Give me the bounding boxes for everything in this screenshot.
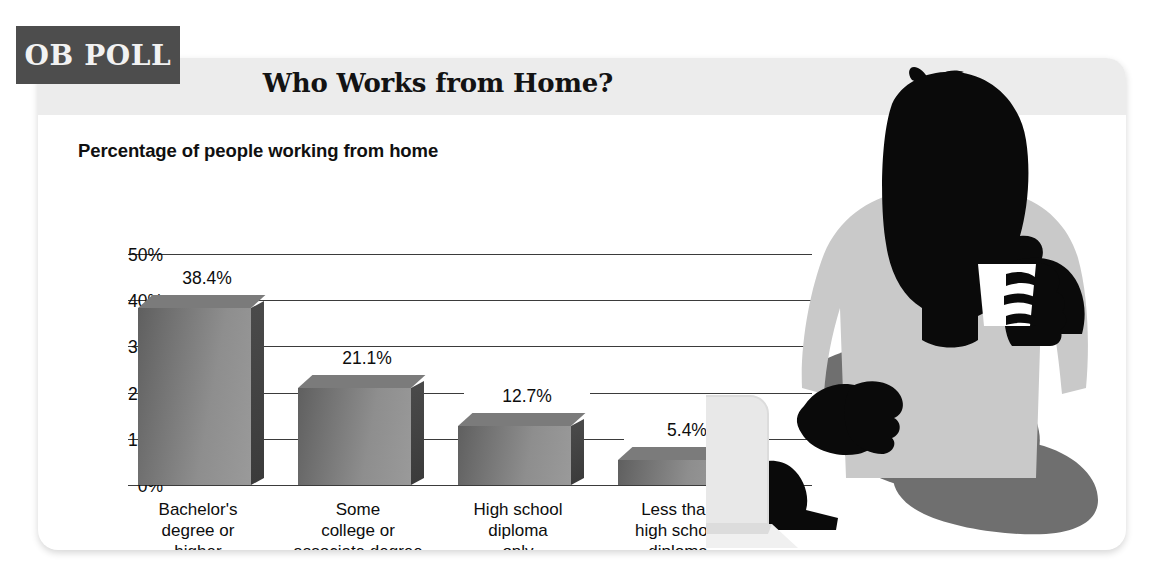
bars-layer: 38.4%21.1%12.7%5.4% (78, 179, 1088, 549)
bar-top-face (458, 413, 585, 426)
badge-label: OB POLL (25, 39, 172, 72)
bar-value-label: 12.7% (464, 386, 590, 407)
chart-subtitle: Percentage of people working from home (78, 140, 438, 162)
bar (618, 460, 731, 485)
bar (138, 308, 251, 485)
bar-front-face (618, 460, 731, 485)
chart-area: Percentage of people working from home 5… (38, 115, 1126, 550)
bar (458, 426, 571, 485)
bar-top-face (298, 375, 425, 388)
bar (298, 388, 411, 485)
bar-top-face (138, 295, 265, 308)
poll-card: Who Works from Home? Percentage of peopl… (38, 58, 1126, 550)
x-axis-category-label: High school diploma only (441, 499, 595, 550)
ob-poll-badge: OB POLL (16, 26, 180, 84)
x-axis-category-label: Bachelor's degree or higher (121, 499, 275, 550)
bar-value-label: 5.4% (624, 420, 750, 441)
bar-side-face (251, 301, 264, 485)
bar-front-face (458, 426, 571, 485)
bar-top-face (618, 447, 745, 460)
poll-graphic: Who Works from Home? Percentage of peopl… (0, 0, 1161, 582)
bar-side-face (411, 381, 424, 485)
bar-side-face (571, 419, 584, 485)
x-axis-category-label: Less than high school diploma (601, 499, 755, 550)
bar-front-face (138, 308, 251, 485)
bar-value-label: 38.4% (144, 268, 270, 289)
x-axis-category-label: Some college or associate degree (281, 499, 435, 550)
bar-front-face (298, 388, 411, 485)
bar-chart-plot: 50%40%30%20%10%0% 38.4%21.1%12.7%5.4% Ba… (78, 179, 1088, 549)
bar-value-label: 21.1% (304, 348, 430, 369)
